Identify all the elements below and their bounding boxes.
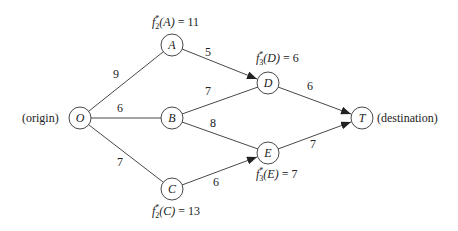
svg-text:O: O [76,111,85,125]
node-E: E [257,142,279,164]
weight-O-A: 9 [113,67,119,81]
node-A: A [161,34,183,56]
value-label-A: f*2(A) = 11 [152,14,199,31]
weight-O-B: 6 [117,101,123,115]
node-T: T [351,107,373,129]
edge-B-D [182,87,258,114]
edge-O-C [89,125,163,182]
weight-D-T: 6 [307,79,313,93]
edge-O-A [89,52,163,111]
weight-C-E: 6 [213,175,219,189]
weight-E-T: 7 [310,137,316,151]
value-label-E: f*3(E) = 7 [256,166,297,183]
destination-label: (destination) [377,111,438,125]
node-B: B [161,107,183,129]
value-label-C: f*2(C) = 13 [152,203,200,220]
weight-O-C: 7 [117,155,123,169]
node-O: O [69,107,91,129]
edge-D-T [278,87,351,114]
svg-text:A: A [167,38,176,52]
svg-text:C: C [168,182,177,196]
weight-B-E: 8 [210,116,216,130]
node-C: C [161,178,183,200]
svg-text:E: E [263,146,272,160]
node-D: D [257,72,279,94]
svg-text:D: D [263,76,273,90]
weight-B-D: 7 [205,84,211,98]
shortest-path-network: 9 6 7 5 7 8 6 6 7 O A B C D E T (origin)… [0,0,458,231]
edge-B-E [182,122,258,149]
value-label-D: f*3(D) = 6 [256,50,299,67]
weight-A-D: 5 [205,45,211,59]
origin-label: (origin) [22,111,59,125]
edge-C-E [182,157,257,185]
edge-A-D [182,49,257,79]
svg-text:B: B [168,111,176,125]
